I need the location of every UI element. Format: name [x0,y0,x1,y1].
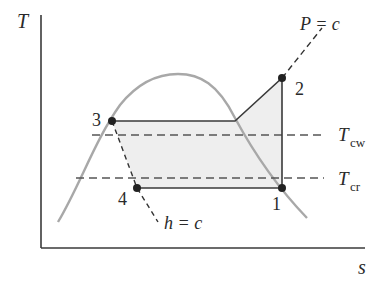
state-point-4 [133,184,141,192]
state-label-2: 2 [295,79,304,99]
t-cr-label: T [338,168,350,189]
s-label: s [358,256,366,278]
state-label-1: 1 [272,194,281,214]
state-point-2 [278,74,286,82]
cycle-shaded-area [112,78,282,188]
t-s-diagram: T s s s 1 2 3 4 P = c h = c T cw T cr [0,0,380,290]
state-label-4: 4 [118,189,127,209]
t-cw-subscript: cw [350,135,366,150]
t-cr-subscript: cr [350,179,361,194]
pressure-constant-label: P = c [299,14,340,34]
enthalpy-constant-label: h = c [164,213,202,233]
p-constant-dashed-line [282,28,322,78]
t-cw-label: T [338,124,350,145]
state-point-1 [278,184,286,192]
state-label-3: 3 [92,110,101,130]
state-point-3 [108,117,116,125]
y-axis-label: T [17,10,30,32]
